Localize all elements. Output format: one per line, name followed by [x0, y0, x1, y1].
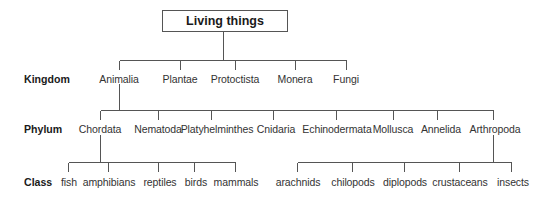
phylum-node: Platyhelminthes: [181, 123, 254, 135]
row-label-phylum: Phylum: [24, 123, 62, 136]
class-node: birds: [185, 176, 207, 188]
phylum-node: Arthropoda: [470, 123, 521, 135]
kingdom-node: Monera: [277, 73, 312, 85]
taxonomy-tree-diagram: Living things Kingdom Phylum Class Anima…: [0, 0, 552, 199]
class-node: amphibians: [83, 176, 136, 188]
class-node: mammals: [214, 176, 259, 188]
kingdom-node: Animalia: [99, 73, 138, 85]
kingdom-node: Plantae: [163, 73, 198, 85]
class-node: diplopods: [383, 176, 427, 188]
root-node-living-things: Living things: [162, 10, 288, 32]
class-node: chilopods: [331, 176, 374, 188]
phylum-node: Echinodermata: [302, 123, 371, 135]
class-node: reptiles: [143, 176, 176, 188]
phylum-node: Chordata: [79, 123, 121, 135]
class-node: fish: [61, 176, 77, 188]
class-node: insects: [497, 176, 529, 188]
class-node: arachnids: [276, 176, 321, 188]
class-node: crustaceans: [432, 176, 488, 188]
phylum-node: Nematoda: [134, 123, 182, 135]
phylum-node: Mollusca: [373, 123, 414, 135]
root-title: Living things: [186, 14, 264, 28]
kingdom-node: Fungi: [333, 73, 359, 85]
kingdom-node: Protoctista: [211, 73, 260, 85]
phylum-node: Cnidaria: [257, 123, 295, 135]
row-label-kingdom: Kingdom: [24, 73, 70, 86]
phylum-node: Annelida: [421, 123, 461, 135]
row-label-class: Class: [24, 176, 52, 189]
